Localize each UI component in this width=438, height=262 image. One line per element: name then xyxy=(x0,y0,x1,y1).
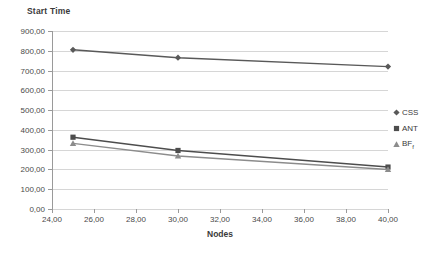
y-tick-mark xyxy=(48,31,52,32)
y-tick-mark xyxy=(48,169,52,170)
series-line-css xyxy=(73,50,388,67)
series-line-ant xyxy=(73,137,388,167)
chart-legend: CSSANTBFf xyxy=(392,104,436,152)
y-tick-label: 700,00 xyxy=(21,66,45,75)
data-point-marker xyxy=(393,141,399,147)
x-tick-mark xyxy=(52,209,53,213)
data-point-marker xyxy=(385,64,391,70)
plot-series-svg xyxy=(52,31,388,209)
y-tick-mark xyxy=(48,90,52,91)
chart-title: Start Time xyxy=(27,6,70,16)
y-tick-mark xyxy=(48,150,52,151)
legend-entry-ant[interactable]: ANT xyxy=(392,120,436,136)
y-tick-label: 500,00 xyxy=(21,106,45,115)
legend-label: CSS xyxy=(402,108,418,117)
x-tick-mark xyxy=(94,209,95,213)
series-line-bf_f xyxy=(73,143,388,169)
y-tick-mark xyxy=(48,71,52,72)
x-tick-label: 32,00 xyxy=(210,215,230,224)
y-tick-label: 600,00 xyxy=(21,86,45,95)
x-axis-title: Nodes xyxy=(52,229,388,239)
data-point-marker xyxy=(175,148,180,153)
square-marker-icon xyxy=(392,124,401,133)
legend-label: ANT xyxy=(402,124,418,133)
x-tick-mark xyxy=(388,209,389,213)
chart-screenshot: Start Time Nodes 0,00100,00200,00300,004… xyxy=(0,0,438,262)
x-tick-mark xyxy=(220,209,221,213)
y-tick-mark xyxy=(48,189,52,190)
x-tick-label: 24,00 xyxy=(42,215,62,224)
y-tick-mark xyxy=(48,110,52,111)
y-tick-label: 0,00 xyxy=(29,205,45,214)
x-tick-mark xyxy=(178,209,179,213)
data-point-marker xyxy=(394,125,399,130)
y-tick-label: 900,00 xyxy=(21,27,45,36)
x-tick-label: 28,00 xyxy=(126,215,146,224)
data-point-marker xyxy=(393,109,399,115)
data-point-marker xyxy=(70,135,75,140)
y-tick-label: 200,00 xyxy=(21,165,45,174)
legend-entry-css[interactable]: CSS xyxy=(392,104,436,120)
legend-entry-bf_f[interactable]: BFf xyxy=(392,136,436,152)
y-tick-label: 100,00 xyxy=(21,185,45,194)
y-tick-mark xyxy=(48,130,52,131)
x-tick-label: 34,00 xyxy=(252,215,272,224)
x-tick-label: 30,00 xyxy=(168,215,188,224)
x-tick-label: 38,00 xyxy=(336,215,356,224)
diamond-marker-icon xyxy=(392,108,401,117)
y-tick-label: 300,00 xyxy=(21,145,45,154)
x-tick-mark xyxy=(262,209,263,213)
x-tick-mark xyxy=(304,209,305,213)
y-tick-label: 800,00 xyxy=(21,46,45,55)
data-point-marker xyxy=(70,47,76,53)
x-tick-mark xyxy=(346,209,347,213)
triangle-marker-icon xyxy=(392,140,401,149)
plot-area: Nodes 0,00100,00200,00300,00400,00500,00… xyxy=(52,31,388,209)
x-tick-mark xyxy=(136,209,137,213)
x-tick-label: 36,00 xyxy=(294,215,314,224)
legend-label: BFf xyxy=(402,139,414,150)
data-point-marker xyxy=(175,55,181,61)
y-tick-label: 400,00 xyxy=(21,125,45,134)
y-tick-mark xyxy=(48,51,52,52)
x-tick-label: 40,00 xyxy=(378,215,398,224)
x-tick-label: 26,00 xyxy=(84,215,104,224)
